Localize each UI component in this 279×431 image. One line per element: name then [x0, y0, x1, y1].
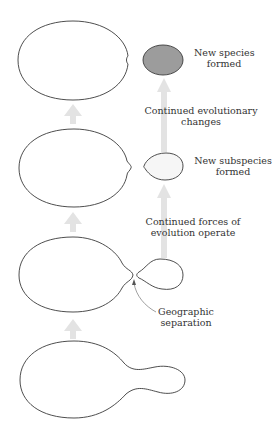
label-line: New subspecies: [192, 155, 274, 166]
new-species-label: New species formed: [194, 47, 254, 69]
label-line: Continued forces of: [143, 216, 243, 227]
stage-4-parent-population: [18, 21, 128, 100]
label-line: formed: [194, 58, 254, 69]
arrow-up-icon: [64, 319, 82, 339]
label-line: evolution operate: [143, 227, 243, 238]
arrow-up-icon: [64, 212, 82, 232]
new-subspecies-label: New subspecies formed: [192, 155, 274, 177]
stage-3-parent-population: [19, 129, 131, 207]
stage-1-initial-population: [20, 341, 185, 418]
label-line: Geographic: [156, 306, 216, 317]
stage-2-small-subpopulation: [137, 259, 183, 289]
continued-changes-label: Continued evolutionary changes: [142, 105, 260, 127]
geographic-separation-pointer: [134, 283, 156, 312]
label-line: formed: [192, 166, 274, 177]
new-subspecies-shape: [144, 153, 183, 180]
geographic-separation-label: Geographic separation: [156, 306, 216, 328]
label-line: New species: [194, 47, 254, 58]
label-line: separation: [156, 317, 216, 328]
label-line: changes: [142, 116, 260, 127]
stage-2-population-with-neck: [19, 237, 133, 312]
new-species-shape: [143, 45, 183, 75]
arrow-up-icon: [64, 104, 82, 124]
continued-forces-label: Continued forces of evolution operate: [143, 216, 243, 238]
pointer-arrowhead-icon: [132, 279, 136, 285]
label-line: Continued evolutionary: [142, 105, 260, 116]
left-arrows: [64, 104, 82, 339]
